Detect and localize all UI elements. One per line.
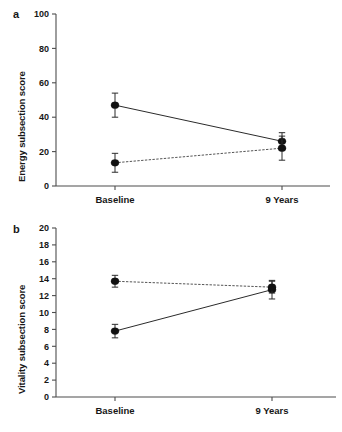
series-line-solid-line-group: [115, 105, 282, 141]
panel-a: a Energy subsection score 020406080100 B…: [0, 0, 342, 216]
y-tick-label: 0: [44, 181, 49, 191]
panel-a-series: [111, 93, 286, 172]
data-point-marker: [111, 102, 119, 109]
y-tick-label: 12: [39, 291, 49, 301]
series-line-dotted-line-group: [115, 148, 282, 163]
y-tick-label: 80: [39, 44, 49, 54]
y-tick-label: 2: [44, 375, 49, 385]
data-point-marker: [268, 284, 276, 291]
panel-a-axes: [56, 14, 330, 186]
data-point-marker: [111, 328, 119, 335]
x-tick-label: 9 Years: [265, 194, 298, 205]
y-tick-label: 0: [44, 392, 49, 402]
y-tick-label: 20: [39, 147, 49, 157]
panel-b-x-ticks: Baseline9 Years: [95, 397, 288, 416]
x-tick-label: Baseline: [95, 194, 134, 205]
panel-b-plot: 02468101214161820 Baseline9 Years: [0, 216, 342, 432]
y-tick-label: 60: [39, 78, 49, 88]
series-line-dotted-line-group: [115, 281, 272, 287]
y-tick-label: 20: [39, 223, 49, 233]
x-tick-label: Baseline: [95, 405, 134, 416]
y-tick-label: 16: [39, 257, 49, 267]
y-tick-label: 18: [39, 240, 49, 250]
y-tick-label: 4: [44, 358, 49, 368]
panel-b-y-ticks: 02468101214161820: [39, 223, 56, 402]
panel-a-x-ticks: Baseline9 Years: [95, 186, 298, 205]
panel-a-plot: 020406080100 Baseline9 Years: [0, 0, 342, 216]
figure-two-panel-line-chart: a Energy subsection score 020406080100 B…: [0, 0, 342, 432]
series-line-solid-line-group: [115, 290, 272, 331]
y-tick-label: 6: [44, 342, 49, 352]
panel-b: b Vitality subsection score 024681012141…: [0, 216, 342, 432]
panel-a-y-ticks: 020406080100: [34, 9, 56, 191]
panel-b-axes: [56, 228, 336, 397]
y-tick-label: 40: [39, 112, 49, 122]
y-tick-label: 100: [34, 9, 49, 19]
data-point-marker: [111, 159, 119, 166]
data-point-marker: [111, 278, 119, 285]
x-tick-label: 9 Years: [255, 405, 288, 416]
panel-b-series: [111, 275, 276, 338]
y-tick-label: 8: [44, 325, 49, 335]
data-point-marker: [278, 145, 286, 152]
y-tick-label: 10: [39, 308, 49, 318]
y-tick-label: 14: [39, 274, 49, 284]
